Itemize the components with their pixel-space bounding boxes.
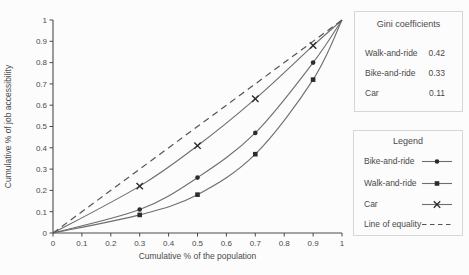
legend-entry: Car — [354, 200, 462, 209]
legend-entry-label: Bike-and-ride — [364, 157, 415, 166]
dashed-line-icon — [422, 220, 452, 229]
legend-entry: Line of equality — [354, 220, 462, 229]
gini-panel: Gini coefficients Walk-and-ride 0.42 Bik… — [354, 11, 463, 112]
x-tick-label: 0.1 — [76, 239, 88, 248]
gini-row-label: Bike-and-ride — [365, 69, 416, 78]
y-tick-label: 0.6 — [36, 101, 48, 110]
circle-marker — [195, 175, 200, 180]
x-marker — [137, 183, 143, 189]
gini-row-value: 0.11 — [429, 89, 445, 98]
gini-row-value: 0.42 — [428, 49, 445, 58]
square-marker — [311, 77, 316, 82]
series-line-of-equality — [53, 20, 342, 233]
y-tick-label: 0.2 — [36, 186, 48, 195]
y-tick-label: 0.8 — [36, 58, 48, 67]
gini-row: Walk-and-ride 0.42 — [355, 49, 462, 58]
gini-row-value: 0.33 — [428, 69, 445, 78]
square-marker — [195, 192, 200, 197]
x-marker — [252, 96, 258, 102]
lorenz-figure: 00.10.20.30.40.50.60.70.80.9100.10.20.30… — [0, 0, 469, 275]
square-marker — [137, 213, 142, 218]
x-tick-label: 0.4 — [163, 239, 175, 248]
x-tick-label: 0.7 — [250, 239, 262, 248]
legend-entry-label: Line of equality — [364, 220, 421, 229]
legend-entry: Walk-and-ride — [354, 179, 462, 188]
legend-entry: Bike-and-ride — [354, 157, 462, 166]
series-path-line-of-equality — [53, 20, 342, 233]
legend-entry-label: Walk-and-ride — [364, 179, 417, 188]
y-tick-label: 0.1 — [36, 208, 48, 217]
x-tick-label: 0.2 — [105, 239, 117, 248]
x-tick-label: 0 — [51, 239, 56, 248]
y-tick-label: 0.3 — [36, 165, 48, 174]
line-square-marker-icon — [422, 179, 452, 188]
legend-panel: Legend Bike-and-ride Walk-and-ride Car L… — [353, 130, 463, 236]
gini-panel-title: Gini coefficients — [355, 12, 462, 29]
x-axis-label: Cumulative % of the population — [139, 251, 257, 261]
y-tick-label: 0.4 — [36, 144, 48, 153]
gini-row-label: Car — [365, 89, 379, 98]
circle-marker — [137, 207, 142, 212]
x-marker — [194, 142, 200, 148]
circle-marker — [435, 159, 440, 164]
y-axis-label: Cumulative % of job accessibility — [3, 64, 13, 188]
x-tick-label: 0.5 — [192, 239, 204, 248]
gini-row: Car 0.11 — [355, 89, 462, 98]
square-marker — [253, 152, 258, 157]
y-tick-label: 0.5 — [36, 122, 48, 131]
circle-marker — [253, 131, 258, 136]
legend-entry-label: Car — [364, 200, 378, 209]
legend-panel-title: Legend — [354, 131, 462, 146]
y-tick-label: 0 — [43, 229, 48, 238]
x-tick-label: 0.8 — [279, 239, 291, 248]
x-tick-label: 0.6 — [221, 239, 233, 248]
y-tick-label: 0.9 — [36, 37, 48, 46]
gini-row-label: Walk-and-ride — [365, 49, 418, 58]
square-marker — [435, 181, 440, 186]
circle-marker — [311, 60, 316, 65]
y-tick-label: 1 — [43, 16, 48, 25]
x-tick-label: 0.3 — [134, 239, 146, 248]
gini-row: Bike-and-ride 0.33 — [355, 69, 462, 78]
x-tick-label: 1 — [340, 239, 345, 248]
line-circle-marker-icon — [422, 157, 452, 166]
y-tick-label: 0.7 — [36, 80, 48, 89]
line-x-marker-icon — [422, 200, 452, 209]
x-tick-label: 0.9 — [308, 239, 320, 248]
